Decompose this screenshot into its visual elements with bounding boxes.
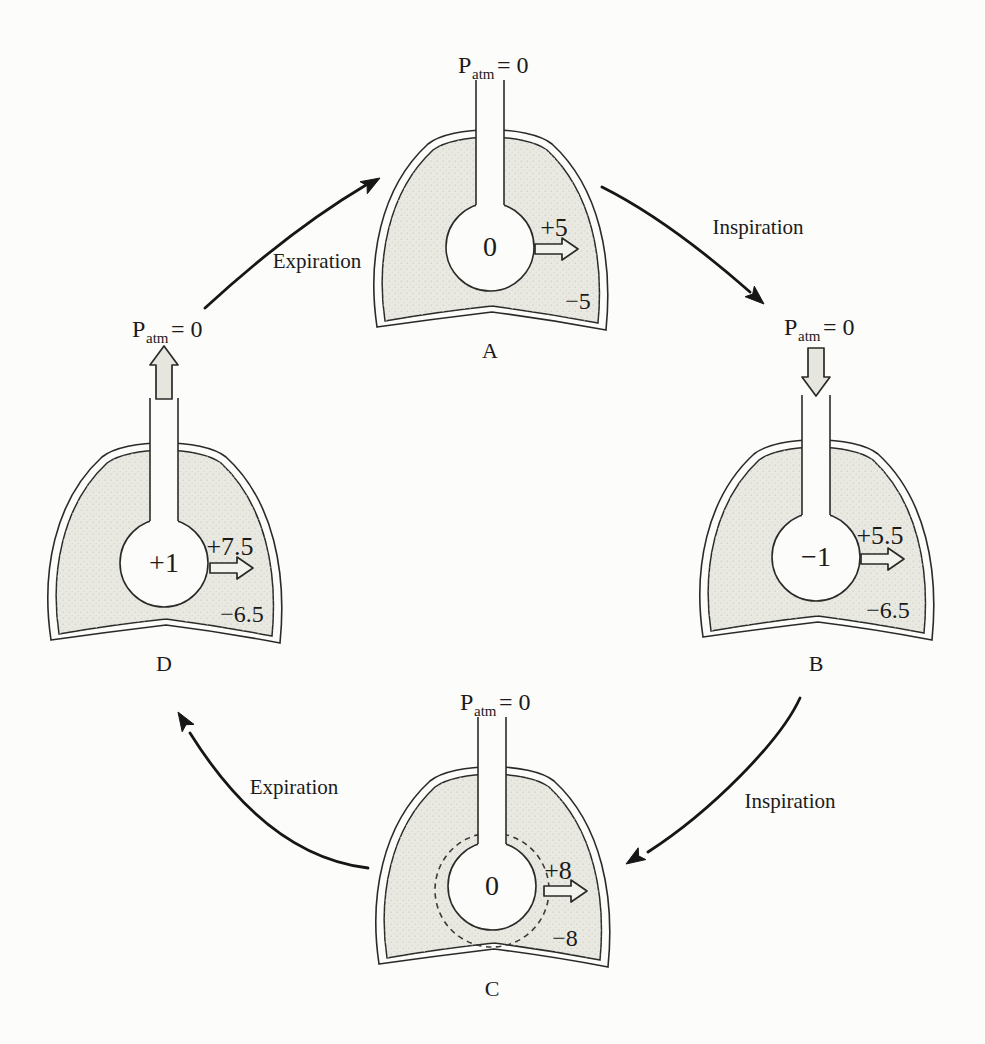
lung-diagram-c: P atm = 0 0 +8 −8 C (376, 689, 610, 1001)
lung-diagram-a: P atm = 0 0 +5 −5 A (374, 52, 608, 363)
diagram-letter: C (485, 976, 500, 1001)
airflow-in-arrow (802, 348, 830, 396)
intrapleural-pressure: −6.5 (866, 597, 910, 623)
patm-symbol: P (458, 52, 471, 78)
alveolar-pressure: +1 (149, 547, 179, 578)
trachea-lumen (802, 395, 830, 521)
cycle-label-inspiration-top-right: Inspiration (713, 215, 804, 239)
arrowhead-bottom-left (178, 712, 194, 732)
cycle-arrow-inspiration-top-right (602, 187, 750, 292)
airflow-out-arrow (150, 346, 178, 399)
cycle-label-expiration-bottom-left: Expiration (250, 775, 339, 799)
patm-value: = 0 (171, 316, 203, 342)
cycle-arrow-expiration-bottom-left (190, 733, 368, 868)
respiratory-cycle-figure: P atm = 0 0 +5 −5 A P atm = 0 −1 +5.5 −6… (0, 0, 985, 1044)
cycle-arrow-inspiration-bottom-right (648, 698, 800, 852)
trachea-lumen (150, 398, 178, 527)
transpulmonary-pressure: +5.5 (856, 521, 903, 550)
patm-subscript: atm (474, 703, 497, 719)
diagram-letter: A (482, 338, 498, 363)
patm-subscript: atm (146, 330, 169, 346)
patm-subscript: atm (798, 328, 821, 344)
intrapleural-pressure: −6.5 (220, 601, 264, 627)
transpulmonary-pressure: +5 (540, 213, 568, 242)
patm-symbol: P (784, 314, 797, 340)
patm-value: = 0 (823, 314, 855, 340)
trachea-lumen (476, 80, 504, 211)
cycle-label-expiration-top-left: Expiration (273, 249, 362, 273)
patm-value: = 0 (499, 689, 531, 715)
lung-diagram-b: P atm = 0 −1 +5.5 −6.5 B (700, 314, 934, 676)
patm-subscript: atm (472, 66, 495, 82)
cycle-arrow-expiration-top-left (205, 185, 366, 308)
lung-diagram-d: P atm = 0 +1 +7.5 −6.5 D (48, 316, 282, 676)
intrapleural-pressure: −8 (552, 925, 578, 951)
trachea-lumen (478, 717, 506, 850)
arrowhead-bottom-right (626, 848, 646, 864)
transpulmonary-pressure: +8 (544, 856, 572, 885)
cycle-diagram-canvas: P atm = 0 0 +5 −5 A P atm = 0 −1 +5.5 −6… (0, 0, 985, 1044)
patm-value: = 0 (497, 52, 529, 78)
diagram-letter: D (156, 651, 172, 676)
diagram-letter: B (809, 651, 824, 676)
intrapleural-pressure: −5 (565, 288, 591, 314)
alveolar-pressure: 0 (485, 870, 499, 901)
patm-symbol: P (132, 316, 145, 342)
alveolar-pressure: −1 (801, 541, 831, 572)
cycle-label-inspiration-bottom-right: Inspiration (745, 789, 836, 813)
patm-symbol: P (460, 689, 473, 715)
alveolar-pressure: 0 (483, 231, 497, 262)
transpulmonary-pressure: +7.5 (206, 532, 253, 561)
